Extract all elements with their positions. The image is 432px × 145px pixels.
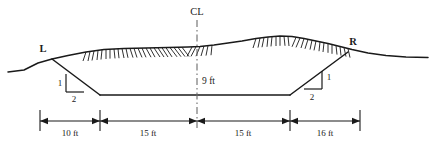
- dimension-label-2: 15 ft: [140, 128, 157, 138]
- dimension-label-4: 16 ft: [317, 128, 334, 138]
- left-slope-vertical-label: 1: [58, 78, 63, 88]
- left-cut-slope-line: [52, 59, 100, 95]
- right-point-label: R: [349, 36, 357, 47]
- ground-hatching-right: [253, 36, 350, 58]
- depth-label: 9 ft: [202, 76, 215, 86]
- dimension-label-1: 10 ft: [62, 128, 79, 138]
- cross-section-figure: CL L R 9 ft 1 2 2 1 10 ft 15 ft 15 ft 16…: [0, 0, 432, 145]
- natural-ground-line: [8, 36, 428, 72]
- right-slope-vertical-label: 1: [327, 72, 332, 82]
- right-slope-horizontal-label: 2: [310, 92, 315, 102]
- centerline-label: CL: [190, 6, 203, 17]
- cross-section-svg: CL L R 9 ft 1 2 2 1 10 ft 15 ft 15 ft 16…: [0, 0, 432, 145]
- dimension-label-3: 15 ft: [235, 128, 252, 138]
- left-point-label: L: [39, 43, 46, 54]
- left-slope-horizontal-label: 2: [72, 94, 77, 104]
